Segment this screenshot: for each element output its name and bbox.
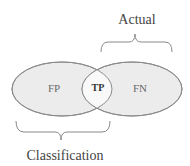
actual-label: Actual: [118, 12, 155, 27]
classification-label: Classification: [27, 148, 104, 163]
fp-label: FP: [48, 82, 60, 94]
venn-diagram: FP TP FN Actual Classification: [0, 0, 190, 166]
actual-brace: [101, 34, 172, 52]
fn-label: FN: [133, 82, 147, 94]
tp-label: TP: [92, 82, 105, 93]
classification-brace: [16, 121, 110, 140]
